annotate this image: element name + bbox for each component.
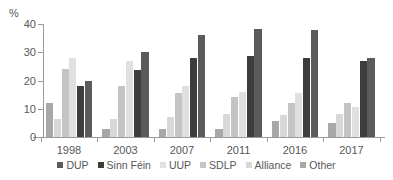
x-tick-mark — [210, 137, 211, 142]
bar — [141, 52, 148, 137]
legend-swatch-icon — [160, 162, 166, 168]
bar — [182, 86, 189, 137]
legend-label: Alliance — [255, 159, 292, 171]
x-tick-mark — [97, 137, 98, 142]
legend-label: UUP — [169, 159, 191, 171]
bar — [223, 114, 230, 137]
bar — [247, 56, 254, 137]
bar — [102, 129, 109, 137]
legend-label: SDLP — [209, 159, 236, 171]
bar — [215, 129, 222, 137]
legend-item[interactable]: Alliance — [246, 159, 292, 171]
x-axis-line — [33, 137, 385, 138]
x-tick-mark — [380, 137, 381, 142]
chart-legend: DUPSinn FéinUUPSDLPAllianceOther — [0, 159, 393, 171]
legend-label: Other — [309, 159, 335, 171]
bar — [118, 86, 125, 137]
bar — [54, 119, 61, 137]
bar — [344, 103, 351, 137]
legend-item[interactable]: DUP — [57, 159, 88, 171]
bar — [288, 103, 295, 137]
bar — [231, 97, 238, 137]
bar — [367, 58, 374, 137]
bar — [134, 70, 141, 137]
bar — [254, 29, 261, 137]
bar — [360, 61, 367, 137]
bar — [239, 92, 246, 137]
legend-swatch-icon — [300, 162, 306, 168]
bar — [110, 119, 117, 137]
bar — [311, 30, 318, 137]
x-tick-label: 2011 — [211, 144, 267, 156]
legend-swatch-icon — [98, 162, 104, 168]
bar — [352, 107, 359, 137]
legend-label: Sinn Féin — [107, 159, 151, 171]
bar — [175, 93, 182, 137]
legend-item[interactable]: Sinn Féin — [98, 159, 151, 171]
bar — [198, 35, 205, 137]
legend-item[interactable]: Other — [300, 159, 335, 171]
bar — [126, 61, 133, 137]
x-tick-mark — [41, 137, 42, 142]
bar — [303, 58, 310, 137]
legend-label: DUP — [66, 159, 88, 171]
x-tick-mark — [323, 137, 324, 142]
legend-swatch-icon — [57, 162, 63, 168]
bar — [62, 69, 69, 137]
bar — [295, 93, 302, 137]
bar — [280, 115, 287, 137]
x-tick-label: 2007 — [154, 144, 210, 156]
bar-chart: % 010203040 199820032007201120162017 DUP… — [0, 0, 393, 180]
x-tick-label: 2016 — [267, 144, 323, 156]
cropped-title-remnant — [120, 0, 300, 6]
legend-item[interactable]: SDLP — [200, 159, 236, 171]
x-tick-label: 2003 — [98, 144, 154, 156]
bar — [190, 58, 197, 137]
bar — [167, 117, 174, 137]
bar — [328, 123, 335, 137]
bar — [46, 103, 53, 137]
legend-swatch-icon — [200, 162, 206, 168]
x-tick-label: 1998 — [41, 144, 97, 156]
plot-area — [0, 24, 393, 137]
bar — [159, 129, 166, 137]
bar — [336, 114, 343, 137]
bar — [272, 121, 279, 137]
bar — [85, 81, 92, 138]
x-tick-label: 2017 — [324, 144, 380, 156]
legend-item[interactable]: UUP — [160, 159, 191, 171]
x-tick-mark — [267, 137, 268, 142]
x-tick-mark — [154, 137, 155, 142]
legend-swatch-icon — [246, 162, 252, 168]
bar — [77, 86, 84, 137]
bar — [69, 58, 76, 137]
